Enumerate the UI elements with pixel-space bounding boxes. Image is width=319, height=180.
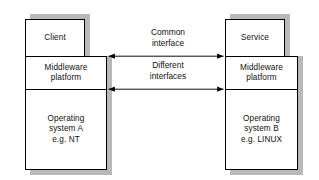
middleware-architecture-diagram: Client Middleware platform Operating sys… [0, 0, 319, 180]
different-interfaces-label: Different interfaces [128, 60, 208, 81]
common-interface-label: Common interface [128, 27, 208, 48]
